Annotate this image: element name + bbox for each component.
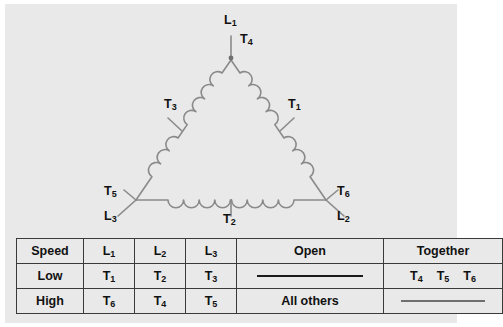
header-open: Open [237, 239, 384, 264]
label-T6: T6 [337, 185, 349, 198]
label-T1: T1 [288, 98, 300, 111]
label-L1: L1 [224, 14, 236, 27]
apex-junction-dot [229, 56, 234, 61]
cell-high-l3: T5 [186, 289, 237, 314]
cell-low-speed: Low [17, 264, 84, 289]
label-T4: T4 [240, 33, 252, 46]
cell-low-l3: T3 [186, 264, 237, 289]
header-l1: L1 [84, 239, 135, 264]
label-T2: T2 [223, 213, 235, 226]
right-leg-winding [231, 60, 326, 200]
bottom-left-winding [136, 200, 231, 208]
cell-low-together: T4T5T6 [384, 264, 503, 289]
t5-leader-line [124, 190, 136, 200]
t1-leader-line [280, 118, 294, 131]
dash-mark [257, 275, 362, 277]
cell-low-l2: T2 [135, 264, 186, 289]
delta-winding-diagram [0, 0, 462, 232]
cell-high-speed: High [17, 289, 84, 314]
left-leg-winding [136, 60, 231, 200]
header-speed: Speed [17, 239, 84, 264]
table-header-row: Speed L1 L2 L3 Open Together [17, 239, 503, 264]
cell-low-open [237, 264, 384, 289]
header-l2: L2 [135, 239, 186, 264]
cell-high-l1: T6 [84, 289, 135, 314]
cell-high-together [384, 289, 503, 314]
label-T5: T5 [104, 185, 116, 198]
bottom-right-winding [231, 200, 326, 208]
t3-leader-line [168, 118, 182, 131]
cell-high-l2: T4 [135, 289, 186, 314]
cell-high-open: All others [237, 289, 384, 314]
table-row: High T6 T4 T5 All others [17, 289, 503, 314]
label-L2: L2 [337, 210, 349, 223]
header-together: Together [384, 239, 503, 264]
label-T3: T3 [164, 98, 176, 111]
header-l3: L3 [186, 239, 237, 264]
cell-low-l1: T1 [84, 264, 135, 289]
label-L3: L3 [104, 210, 116, 223]
table-row: Low T1 T2 T3 T4T5T6 [17, 264, 503, 289]
speed-connection-table: Speed L1 L2 L3 Open Together Low T1 T2 T… [16, 238, 503, 314]
dash-mark [401, 300, 486, 302]
bottom-left-lead-wire [118, 200, 136, 216]
